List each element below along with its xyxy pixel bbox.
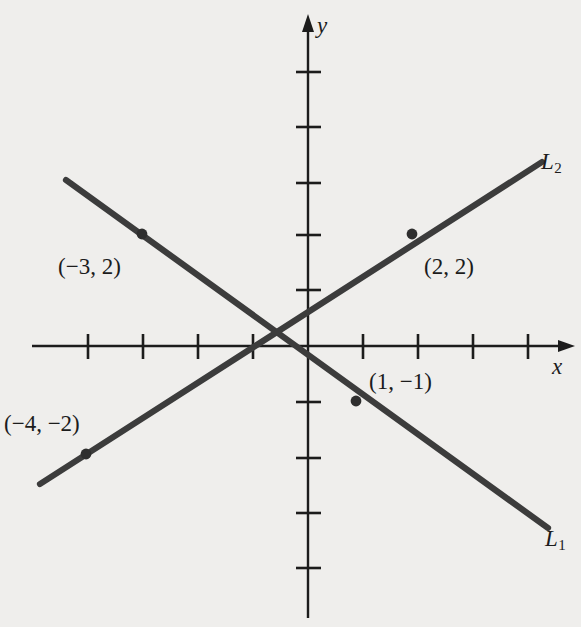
line-label-L1-subscript: 1 bbox=[558, 537, 566, 553]
y-axis-arrowhead bbox=[302, 14, 314, 32]
point-marker-1-neg1 bbox=[351, 396, 362, 407]
graph-canvas bbox=[0, 0, 581, 627]
line-label-L2-base: L bbox=[541, 149, 554, 174]
point-marker-neg4-neg2 bbox=[81, 449, 92, 460]
line-L2 bbox=[40, 162, 542, 484]
x-axis-label: x bbox=[552, 355, 562, 378]
point-marker-neg3-2 bbox=[137, 229, 148, 240]
point-marker-2-2 bbox=[407, 229, 418, 240]
point-label-1-neg1: (1, −1) bbox=[369, 370, 432, 393]
line-label-L2: L2 bbox=[541, 150, 562, 176]
line-label-L1: L1 bbox=[545, 527, 566, 553]
line-label-L2-subscript: 2 bbox=[554, 160, 562, 176]
y-axis-label: y bbox=[317, 14, 327, 37]
point-label-neg4-neg2: (−4, −2) bbox=[4, 412, 80, 435]
coordinate-plane-figure: y x (−3, 2) (−4, −2) (2, 2) (1, −1) L2 L… bbox=[0, 0, 581, 627]
line-label-L1-base: L bbox=[545, 526, 558, 551]
point-label-neg3-2: (−3, 2) bbox=[58, 255, 121, 278]
point-label-2-2: (2, 2) bbox=[424, 255, 474, 278]
x-axis-arrowhead bbox=[558, 340, 575, 352]
